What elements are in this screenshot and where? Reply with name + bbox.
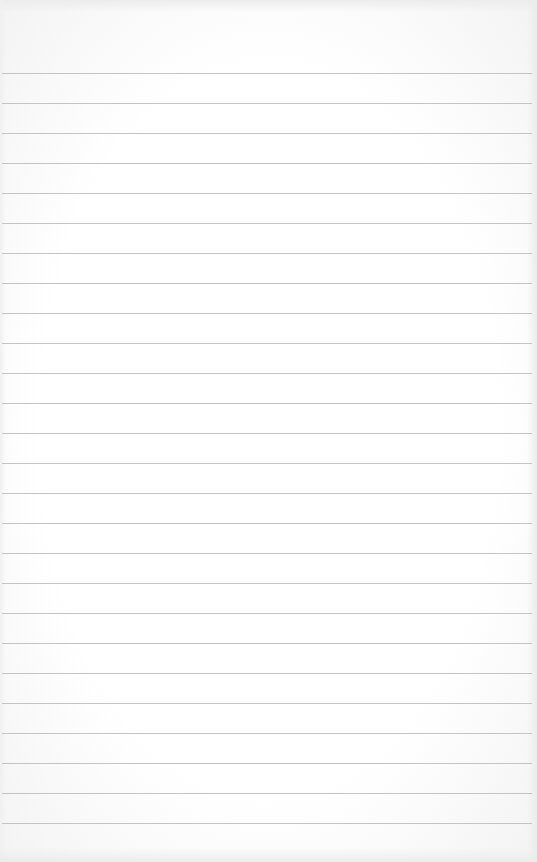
ruled-line — [2, 823, 532, 824]
paper-edge-top — [0, 0, 537, 12]
ruled-line — [2, 793, 532, 794]
ruled-line — [2, 103, 532, 104]
ruled-line — [2, 253, 532, 254]
ruled-line — [2, 223, 532, 224]
ruled-line — [2, 703, 532, 704]
ruled-line — [2, 433, 532, 434]
ruled-line — [2, 673, 532, 674]
ruled-line — [2, 403, 532, 404]
ruled-line — [2, 193, 532, 194]
ruled-line — [2, 583, 532, 584]
ruled-line — [2, 763, 532, 764]
ruled-line — [2, 523, 532, 524]
ruled-line — [2, 163, 532, 164]
ruled-line — [2, 283, 532, 284]
ruled-line — [2, 613, 532, 614]
ruled-line — [2, 553, 532, 554]
ruled-line — [2, 133, 532, 134]
ruled-line — [2, 493, 532, 494]
ruled-line — [2, 373, 532, 374]
ruled-line — [2, 733, 532, 734]
ruled-line — [2, 73, 532, 74]
ruled-line — [2, 313, 532, 314]
ruled-line — [2, 463, 532, 464]
ruled-line — [2, 343, 532, 344]
ruled-paper — [0, 0, 537, 862]
ruled-line — [2, 643, 532, 644]
paper-edge-bottom — [0, 848, 537, 862]
